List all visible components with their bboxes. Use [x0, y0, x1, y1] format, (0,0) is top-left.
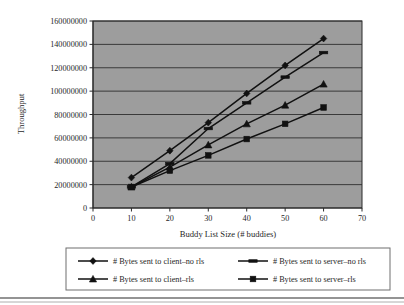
- x-axis-title: Buddy List Size (# buddies): [180, 229, 277, 239]
- data-point-dash: [243, 102, 251, 105]
- y-tick-label: 100000000: [50, 87, 87, 96]
- x-tick-label: 0: [91, 214, 95, 223]
- x-tick-label: 30: [204, 214, 212, 223]
- x-tick-label: 10: [127, 214, 135, 223]
- x-tick-label: 70: [358, 214, 366, 223]
- y-axis-title: Throughput: [16, 93, 26, 134]
- x-tick-label: 40: [243, 214, 251, 223]
- data-point-square: [282, 121, 288, 127]
- chart-figure: 0200000004000000060000000800000001000000…: [0, 0, 404, 305]
- x-tick-label: 20: [166, 214, 174, 223]
- x-tick-label: 60: [319, 214, 327, 223]
- y-tick-label: 60000000: [54, 134, 87, 143]
- data-point-square: [129, 184, 135, 190]
- y-axis: 0200000004000000060000000800000001000000…: [50, 17, 93, 213]
- legend-item-label: # Bytes sent to client–rls: [113, 275, 194, 284]
- data-point-square: [167, 168, 173, 174]
- data-point-dash: [204, 127, 212, 130]
- legend-item-label: # Bytes sent to server–rls: [273, 275, 356, 284]
- y-tick-label: 120000000: [50, 64, 87, 73]
- data-point-square: [244, 136, 250, 142]
- throughput-line-chart: 0200000004000000060000000800000001000000…: [0, 0, 404, 305]
- data-point-dash: [319, 51, 327, 54]
- y-tick-label: 0: [83, 204, 87, 213]
- y-tick-label: 80000000: [54, 111, 87, 120]
- data-point-dash: [249, 260, 257, 263]
- data-point-square: [321, 105, 327, 111]
- data-point-dash: [281, 76, 289, 79]
- data-point-square: [205, 153, 211, 159]
- y-tick-label: 20000000: [54, 181, 87, 190]
- legend-item-label: # Bytes sent to client–no rls: [113, 257, 204, 266]
- data-point-square: [250, 276, 256, 282]
- y-tick-label: 40000000: [54, 157, 87, 166]
- y-tick-label: 160000000: [50, 17, 87, 26]
- x-tick-label: 50: [281, 214, 289, 223]
- y-tick-label: 140000000: [50, 40, 87, 49]
- legend-item-label: # Bytes sent to server–no rls: [273, 257, 366, 266]
